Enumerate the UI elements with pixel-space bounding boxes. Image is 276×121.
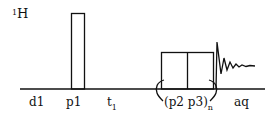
label-p1: p1 [66, 96, 81, 108]
label-t1: t1 [107, 96, 117, 110]
loop-bracket-left [156, 80, 164, 101]
fid-signal [216, 42, 255, 89]
label-loop-sub: n [208, 103, 213, 112]
pulse-p1 [72, 14, 85, 90]
label-aq: aq [234, 96, 249, 108]
label-d1: d1 [29, 96, 44, 108]
label-loop: (p2 p3)n [164, 96, 213, 110]
label-loop-main: (p2 p3) [164, 95, 208, 109]
label-t1-sub: 1 [112, 103, 117, 112]
